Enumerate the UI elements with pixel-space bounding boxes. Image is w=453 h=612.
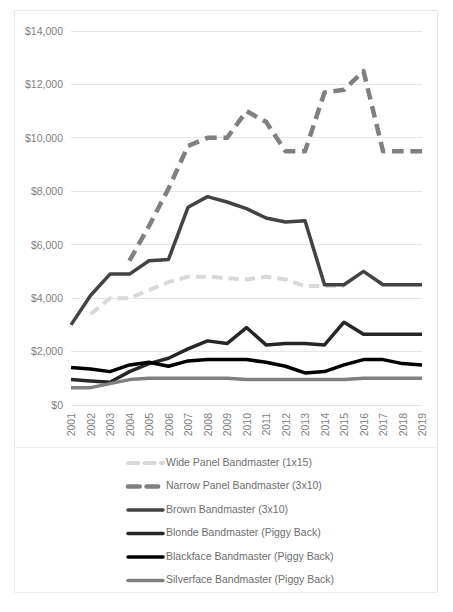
x-axis-tick-label: 2009 bbox=[221, 413, 233, 437]
x-axis-tick-label: 2014 bbox=[319, 413, 331, 437]
x-axis-tick-label: 2018 bbox=[397, 413, 409, 437]
y-axis-tick-label: $10,000 bbox=[25, 132, 63, 144]
x-axis-tick-label: 2012 bbox=[280, 413, 292, 437]
chart-legend: Wide Panel Bandmaster (1x15)Narrow Panel… bbox=[15, 447, 437, 592]
data-series bbox=[71, 71, 422, 388]
y-axis-tick-label: $14,000 bbox=[25, 25, 63, 37]
y-axis-tick-label: $0 bbox=[51, 399, 63, 411]
legend-label[interactable]: Blackface Bandmaster (Piggy Back) bbox=[166, 550, 334, 562]
y-axis-tick-labels: $0$2,000$4,000$6,000$8,000$10,000$12,000… bbox=[25, 25, 63, 411]
x-axis-tick-label: 2006 bbox=[163, 413, 175, 437]
x-axis-tick-labels: 2001200220032004200520062007200820092010… bbox=[65, 413, 428, 437]
x-axis-tick-label: 2007 bbox=[182, 413, 194, 437]
x-axis-tick-label: 2010 bbox=[241, 413, 253, 437]
series-line bbox=[71, 322, 422, 382]
x-axis-tick-label: 2017 bbox=[377, 413, 389, 437]
y-axis-tick-label: $6,000 bbox=[31, 239, 63, 251]
legend-label[interactable]: Wide Panel Bandmaster (1x15) bbox=[166, 456, 312, 468]
y-axis-tick-label: $4,000 bbox=[31, 292, 63, 304]
series-line bbox=[71, 197, 422, 325]
chart-container: $0$2,000$4,000$6,000$8,000$10,000$12,000… bbox=[0, 0, 453, 612]
x-axis-tick-label: 2004 bbox=[124, 413, 136, 437]
legend-label[interactable]: Brown Bandmaster (3x10) bbox=[166, 503, 288, 515]
x-axis-tick-label: 2019 bbox=[416, 413, 428, 437]
series-line bbox=[71, 378, 422, 387]
x-axis-tick-label: 2013 bbox=[299, 413, 311, 437]
series-line bbox=[91, 277, 345, 314]
x-axis-tick-label: 2008 bbox=[202, 413, 214, 437]
line-chart: $0$2,000$4,000$6,000$8,000$10,000$12,000… bbox=[0, 0, 453, 612]
legend-label[interactable]: Narrow Panel Bandmaster (3x10) bbox=[166, 479, 322, 491]
legend-label[interactable]: Blonde Bandmaster (Piggy Back) bbox=[166, 526, 321, 538]
x-axis-tick-label: 2003 bbox=[104, 413, 116, 437]
series-line bbox=[130, 71, 423, 261]
x-axis-tick-label: 2002 bbox=[85, 413, 97, 437]
y-axis-tick-label: $12,000 bbox=[25, 78, 63, 90]
series-line bbox=[71, 360, 422, 373]
x-axis-tick-label: 2015 bbox=[338, 413, 350, 437]
y-axis-tick-label: $8,000 bbox=[31, 185, 63, 197]
legend-label[interactable]: Silverface Bandmaster (Piggy Back) bbox=[166, 573, 334, 585]
x-axis-tick-label: 2011 bbox=[260, 413, 272, 436]
x-axis-tick-label: 2016 bbox=[358, 413, 370, 437]
y-axis-tick-label: $2,000 bbox=[31, 345, 63, 357]
gridlines bbox=[71, 31, 422, 405]
x-axis-tick-label: 2001 bbox=[65, 413, 77, 437]
x-axis-tick-label: 2005 bbox=[143, 413, 155, 437]
